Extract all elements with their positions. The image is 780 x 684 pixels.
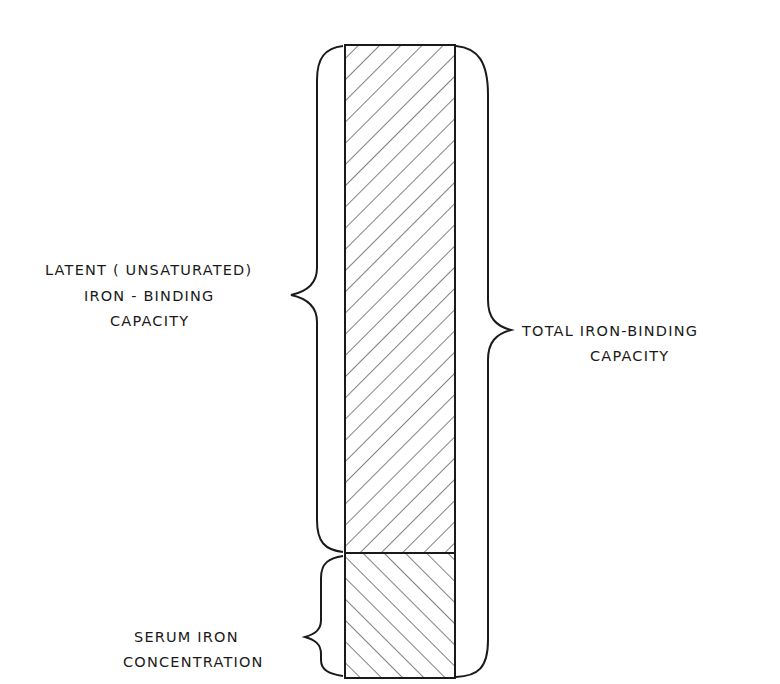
latent-capacity-segment — [345, 45, 455, 553]
latent-label-line2: IRON - BINDING — [84, 288, 214, 304]
total-label-line1: TOTAL IRON-BINDING — [521, 323, 698, 339]
serum-iron-segment — [345, 553, 455, 678]
latent-brace — [291, 46, 343, 552]
total-brace — [456, 46, 511, 677]
latent-capacity-label: LATENT ( UNSATURATED) IRON - BINDING CAP… — [45, 262, 252, 329]
total-capacity-label: TOTAL IRON-BINDING CAPACITY — [521, 323, 698, 364]
serum-label-line2: CONCENTRATION — [123, 654, 264, 670]
serum-iron-label: SERUM IRON CONCENTRATION — [123, 629, 264, 670]
iron-binding-capacity-diagram: LATENT ( UNSATURATED) IRON - BINDING CAP… — [0, 0, 780, 684]
latent-label-line1: LATENT ( UNSATURATED) — [45, 262, 252, 278]
latent-label-line3: CAPACITY — [110, 313, 189, 329]
total-label-line2: CAPACITY — [590, 348, 669, 364]
serum-label-line1: SERUM IRON — [134, 629, 239, 645]
serum-brace — [305, 556, 343, 676]
